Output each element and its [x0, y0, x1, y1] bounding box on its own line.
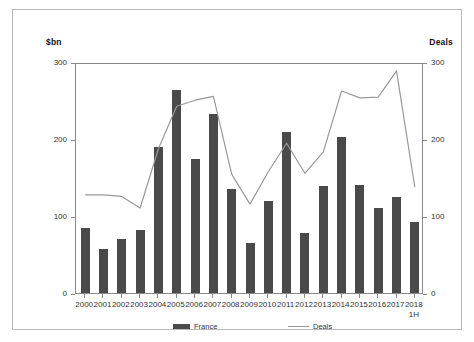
x-axis-tick-mark: [267, 294, 268, 298]
y2-axis-tick-label: 0: [431, 289, 461, 298]
legend-swatch-line: [288, 326, 309, 327]
x-axis-tick-mark: [212, 294, 213, 298]
x-axis-tick-mark: [341, 294, 342, 298]
x-axis-tick-mark: [359, 294, 360, 298]
x-axis-tick-mark: [396, 294, 397, 298]
x-axis-tick-mark: [414, 294, 415, 298]
y-axis-tick-label: 0: [37, 289, 67, 298]
x-axis-tick-mark: [377, 294, 378, 298]
legend-label-deals: Deals: [313, 322, 332, 331]
x-axis-tick-label: 2018: [397, 300, 431, 309]
chart-legend: France Deals: [13, 322, 463, 336]
y2-axis-tick-label: 300: [431, 58, 461, 67]
plot-area: [75, 63, 423, 294]
y-axis-tick-label: 200: [37, 135, 67, 144]
x-axis-tick-mark: [286, 294, 287, 298]
x-axis-tick-mark: [102, 294, 103, 298]
x-axis-tick-mark: [249, 294, 250, 298]
y-axis-tick-label: 300: [37, 58, 67, 67]
right-axis-caption: Deals: [429, 37, 453, 47]
left-axis-caption: $bn: [46, 37, 62, 47]
y2-axis-tick-label: 200: [431, 135, 461, 144]
x-axis-tick-mark: [176, 294, 177, 298]
x-axis-tick-mark: [231, 294, 232, 298]
x-axis-tick-mark: [139, 294, 140, 298]
y2-axis-tick-label: 100: [431, 212, 461, 221]
y-axis-tick-label: 100: [37, 212, 67, 221]
x-axis-tick-mark: [304, 294, 305, 298]
legend-item-france: France: [173, 322, 217, 331]
legend-item-deals: Deals: [288, 322, 332, 331]
y-axis-tick-mark: [71, 294, 75, 295]
chart-frame: $bn Deals 3002001000 3002001000 20002001…: [12, 9, 462, 330]
line-series-deals: [76, 64, 424, 295]
x-axis-tick-mark: [157, 294, 158, 298]
x-axis-tick-label-line2: 1H: [397, 310, 431, 319]
x-axis-tick-mark: [84, 294, 85, 298]
x-axis-tick-mark: [194, 294, 195, 298]
x-axis-tick-mark: [322, 294, 323, 298]
legend-swatch-bar: [173, 324, 190, 329]
legend-label-france: France: [194, 322, 217, 331]
x-axis-tick-mark: [121, 294, 122, 298]
